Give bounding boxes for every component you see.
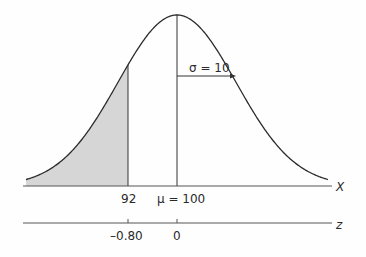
z-axis-label: z <box>335 218 343 232</box>
x-axis-label: X <box>335 180 345 194</box>
z-tick-label-zero: 0 <box>173 229 181 243</box>
tick-label-92: 92 <box>121 192 136 206</box>
tick-label-mu: μ = 100 <box>157 192 205 206</box>
shaded-tail-region <box>26 65 128 186</box>
z-tick-label-neg: –0.80 <box>110 229 143 243</box>
normal-distribution-diagram: σ = 10 X 92 μ = 100 z –0.80 0 <box>0 0 366 257</box>
sigma-label: σ = 10 <box>189 61 230 75</box>
